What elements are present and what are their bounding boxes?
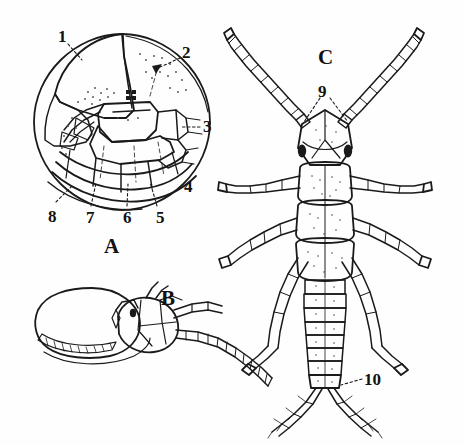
leader-8 (56, 186, 72, 202)
plate-artwork (0, 0, 465, 445)
leader-6 (127, 184, 128, 206)
figure-c-antennal-socket-right (338, 114, 352, 128)
figure-a-dashed-suture-2 (134, 146, 136, 182)
callout-label-10: 10 (364, 371, 381, 388)
figure-a-right-segment-1 (158, 110, 188, 140)
figure-a-right-segment-3 (186, 118, 202, 134)
callout-label-7: 7 (86, 209, 95, 226)
callout-label-2: 2 (182, 44, 191, 61)
figure-c-abdomen (304, 280, 346, 388)
figure-c-eye-left (298, 145, 306, 158)
figure-b-body-mass (35, 288, 140, 358)
figure-b-head-suture-2 (139, 322, 176, 326)
figure-c-leg-middle-left (219, 218, 297, 268)
illustration-plate: 1 2 3 4 5 6 7 8 9 10 A B C (0, 0, 465, 445)
figure-a-suture-3 (148, 162, 152, 188)
figure-b-drawing (35, 282, 272, 386)
figure-a-appendage-left-3 (70, 122, 94, 142)
callout-label-5: 5 (156, 209, 165, 226)
figure-c-leg-middle-right (353, 218, 431, 268)
figure-c-leg-hind-right (342, 258, 408, 375)
callout-label-4: 4 (184, 178, 193, 195)
callout-label-6: 6 (123, 209, 132, 226)
figure-a-abdomen-seg-3 (52, 172, 196, 202)
figure-a-right-segment-2 (176, 110, 178, 140)
figure-c-eye-right (344, 145, 352, 158)
figure-c-head-clypeus (303, 142, 347, 150)
figure-c-cerci (268, 388, 382, 438)
figure-b-antenna (176, 330, 272, 386)
callout-label-9: 9 (318, 83, 327, 100)
figure-a-mid-segment (90, 126, 174, 164)
figure-b-dorsal-appendage-1 (146, 282, 158, 298)
figure-c-antenna-right (344, 28, 424, 120)
figure-b-upper-appendage (174, 302, 222, 318)
callout-label-1: 1 (58, 28, 67, 45)
figure-c-leg-front-right (350, 176, 432, 193)
figure-c-leg-front-left (218, 176, 300, 193)
figure-a-central-tergite-inner (113, 110, 150, 112)
figure-caption-c: C (318, 47, 333, 68)
leader-10 (341, 379, 362, 385)
callout-label-8: 8 (48, 208, 57, 225)
figure-a-suture-1 (93, 158, 96, 186)
figure-caption-b: B (161, 288, 175, 309)
figure-caption-a: A (104, 236, 119, 257)
callout-label-3: 3 (203, 118, 212, 135)
figure-a-dashed-suture-1 (100, 146, 104, 180)
figure-c-antenna-left (224, 28, 304, 120)
figure-c-leg-hind-left (242, 258, 308, 375)
figure-b-eye (130, 309, 136, 317)
